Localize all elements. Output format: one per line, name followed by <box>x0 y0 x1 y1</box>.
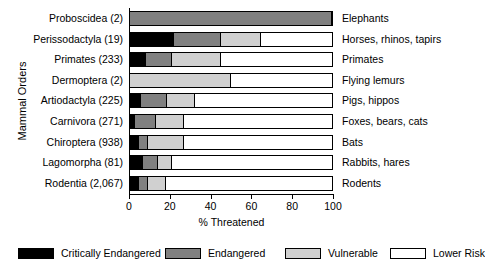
chart-legend: Critically EndangeredEndangeredVulnerabl… <box>0 246 454 266</box>
stacked-bar <box>129 114 333 129</box>
common-name-label: Foxes, bears, cats <box>342 114 428 129</box>
chart-row: Carnivora (271)Foxes, bears, cats <box>129 114 333 129</box>
bar-segment-vulnerable <box>221 33 261 46</box>
stacked-bar <box>129 32 333 47</box>
legend-label: Vulnerable <box>328 247 378 259</box>
bar-segment-endangered <box>130 12 332 25</box>
common-name-label: Pigs, hippos <box>342 93 399 108</box>
bar-segment-vulnerable <box>167 94 194 107</box>
bar-segment-vulnerable <box>148 136 183 149</box>
legend-item: Critically Endangered <box>18 246 161 260</box>
legend-swatch <box>18 248 54 259</box>
bar-segment-lower-risk <box>166 177 332 190</box>
bar-segment-critically-endangered <box>130 136 139 149</box>
legend-item: Lower Risk <box>390 246 485 260</box>
bar-segment-endangered <box>139 177 148 190</box>
x-tick <box>170 195 171 199</box>
bar-segment-endangered <box>135 115 156 128</box>
chart-row: Rodentia (2,067)Rodents <box>129 176 333 191</box>
common-name-label: Rabbits, hares <box>342 155 410 170</box>
category-label: Artiodactyla (225) <box>41 93 123 108</box>
stacked-bar <box>129 11 333 26</box>
chart-row: Primates (233)Primates <box>129 52 333 67</box>
category-label: Perissodactyla (19) <box>33 32 123 47</box>
legend-label: Critically Endangered <box>61 247 161 259</box>
bar-segment-vulnerable <box>172 53 220 66</box>
bar-segment-vulnerable <box>130 74 231 87</box>
legend-swatch <box>165 248 201 259</box>
chart-row: Artiodactyla (225)Pigs, hippos <box>129 93 333 108</box>
x-tick-label: 40 <box>196 200 226 212</box>
bar-segment-lower-risk <box>172 156 332 169</box>
category-label: Proboscidea (2) <box>49 11 123 26</box>
category-label: Chiroptera (938) <box>47 135 123 150</box>
x-tick <box>211 195 212 199</box>
bar-segment-critically-endangered <box>130 177 139 190</box>
category-label: Lagomorpha (81) <box>42 155 123 170</box>
bar-segment-endangered <box>146 53 172 66</box>
plot-area: Proboscidea (2)ElephantsPerissodactyla (… <box>129 8 333 194</box>
category-label: Dermoptera (2) <box>52 73 123 88</box>
bar-segment-endangered <box>141 94 167 107</box>
chart-row: Proboscidea (2)Elephants <box>129 11 333 26</box>
bar-segment-lower-risk <box>184 115 332 128</box>
x-axis-title: % Threatened <box>129 216 334 228</box>
stacked-bar <box>129 73 333 88</box>
bar-segment-critically-endangered <box>130 94 141 107</box>
category-label: Primates (233) <box>54 52 123 67</box>
bar-segment-lower-risk <box>184 136 332 149</box>
common-name-label: Elephants <box>342 11 389 26</box>
bar-segment-lower-risk <box>261 33 332 46</box>
x-tick <box>251 195 252 199</box>
legend-swatch <box>390 248 426 259</box>
legend-label: Endangered <box>208 247 265 259</box>
stacked-bar <box>129 52 333 67</box>
bar-segment-endangered <box>139 136 148 149</box>
chart-row: Lagomorpha (81)Rabbits, hares <box>129 155 333 170</box>
stacked-bar <box>129 93 333 108</box>
x-tick-label: 80 <box>277 200 307 212</box>
bar-segment-critically-endangered <box>130 33 174 46</box>
x-tick-label: 20 <box>155 200 185 212</box>
bar-segment-lower-risk <box>221 53 332 66</box>
bar-segment-critically-endangered <box>130 53 146 66</box>
x-tick <box>333 195 334 199</box>
bar-segment-endangered <box>174 33 220 46</box>
common-name-label: Rodents <box>342 176 381 191</box>
legend-swatch <box>285 248 321 259</box>
x-tick-label: 0 <box>114 200 144 212</box>
chart-row: Chiroptera (938)Bats <box>129 135 333 150</box>
x-tick-label: 100 <box>318 200 348 212</box>
common-name-label: Bats <box>342 135 363 150</box>
category-label: Carnivora (271) <box>50 114 123 129</box>
category-label: Rodentia (2,067) <box>45 176 123 191</box>
x-tick-label: 60 <box>236 200 266 212</box>
y-axis-title: Mammal Orders <box>16 46 28 156</box>
common-name-label: Horses, rhinos, tapirs <box>342 32 441 47</box>
x-tick <box>292 195 293 199</box>
bar-segment-vulnerable <box>158 156 172 169</box>
stacked-bar <box>129 135 333 150</box>
legend-label: Lower Risk <box>433 247 485 259</box>
bar-segment-lower-risk <box>195 94 332 107</box>
stacked-bar <box>129 155 333 170</box>
x-axis-line <box>129 194 334 195</box>
legend-item: Endangered <box>165 246 265 260</box>
bar-segment-endangered <box>143 156 158 169</box>
common-name-label: Primates <box>342 52 383 67</box>
bar-segment-vulnerable <box>148 177 166 190</box>
bar-segment-lower-risk <box>231 74 332 87</box>
bar-segment-critically-endangered <box>130 156 143 169</box>
bar-segment-vulnerable <box>156 115 183 128</box>
common-name-label: Flying lemurs <box>342 73 404 88</box>
chart-row: Perissodactyla (19)Horses, rhinos, tapir… <box>129 32 333 47</box>
chart-row: Dermoptera (2)Flying lemurs <box>129 73 333 88</box>
x-tick <box>129 195 130 199</box>
legend-item: Vulnerable <box>285 246 378 260</box>
stacked-bar <box>129 176 333 191</box>
